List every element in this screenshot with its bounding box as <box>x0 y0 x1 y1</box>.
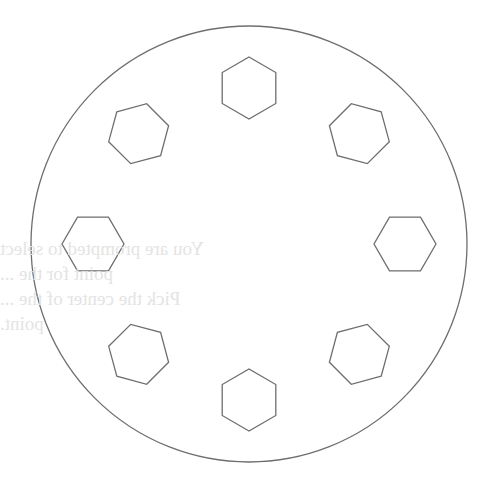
ghost-line-3: Pick the center of the ... <box>0 286 310 311</box>
bleed-through-text: You are prompted to select point for the… <box>0 236 310 336</box>
ghost-line-2: point for the ... <box>0 261 310 286</box>
hex-top-right-icon <box>329 104 389 164</box>
hex-top-icon <box>222 57 276 119</box>
hex-bottom-icon <box>222 369 276 431</box>
hex-right-icon <box>374 217 436 271</box>
ghost-line-4: point. <box>0 311 310 336</box>
ghost-line-1: You are prompted to select <box>0 236 310 261</box>
hex-bottom-right-icon <box>329 324 389 384</box>
hex-top-left-icon <box>109 104 169 164</box>
